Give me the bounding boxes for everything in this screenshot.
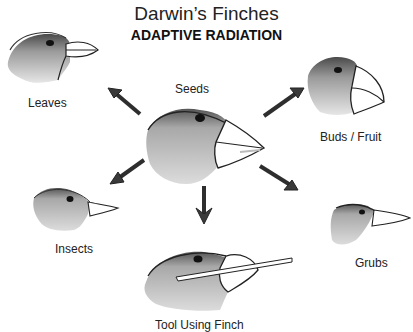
label-buds-fruit: Buds / Fruit	[320, 130, 381, 144]
arrow-to-buds-fruit-icon	[264, 88, 304, 116]
arrow-to-grubs-icon	[260, 166, 298, 190]
beak-icon	[66, 42, 98, 57]
finch-buds-fruit-head	[308, 57, 384, 115]
finch-grubs-head	[331, 204, 410, 245]
label-seeds: Seeds	[175, 82, 209, 96]
eye-icon	[67, 196, 74, 202]
arrow-to-tool-using-icon	[196, 186, 212, 224]
eye-icon	[359, 210, 365, 215]
label-insects: Insects	[55, 242, 93, 256]
arrow-to-insects-icon	[110, 160, 144, 184]
finch-leaves-head	[8, 33, 98, 83]
label-grubs: Grubs	[355, 256, 388, 270]
label-leaves: Leaves	[28, 96, 67, 110]
finch-insects-head	[33, 188, 118, 231]
finch-tool-using-head	[144, 252, 292, 311]
beak-icon	[215, 120, 264, 168]
eye-icon	[195, 114, 205, 122]
eye-icon	[194, 256, 203, 263]
beak-icon	[351, 66, 384, 114]
eye-icon	[334, 67, 342, 73]
beak-icon	[372, 210, 410, 226]
label-tool-using-finch: Tool Using Finch	[155, 318, 244, 332]
arrow-to-leaves-icon	[108, 88, 140, 114]
beak-icon	[88, 202, 118, 216]
finch-seeds-head	[146, 109, 264, 184]
eye-icon	[46, 40, 54, 46]
